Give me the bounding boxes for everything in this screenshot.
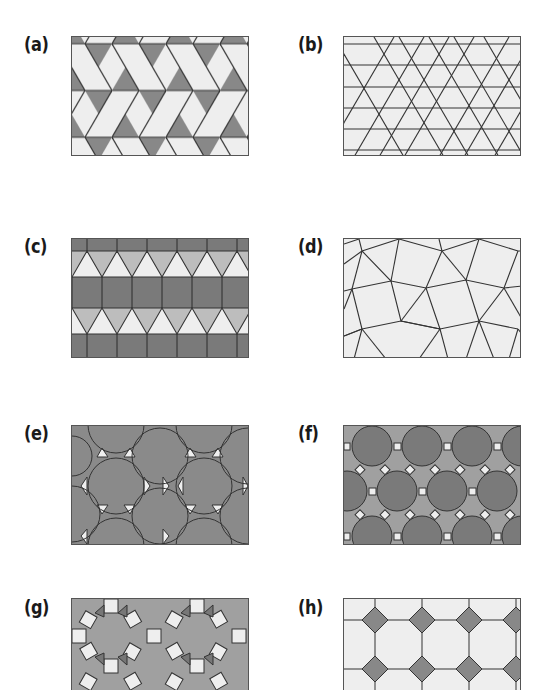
- tiling-panel-c: [71, 238, 249, 358]
- rhombitrihexagonal-tiling-graphic: [72, 599, 249, 690]
- panel-label-f: (f): [298, 422, 319, 444]
- panel-label-d: (d): [298, 235, 323, 257]
- elongated-triangular-tiling-graphic: [72, 239, 249, 358]
- tiling-panel-h: [343, 598, 521, 690]
- panel-label-b: (b): [298, 33, 323, 55]
- panel-label-h: (h): [298, 596, 323, 618]
- tiling-panel-e: [71, 425, 249, 545]
- tiling-panel-d: [343, 238, 521, 358]
- trihexagonal-tiling-graphic: [72, 37, 249, 156]
- truncated-square-tiling-graphic: [344, 599, 521, 690]
- truncated-trihexagonal-tiling-graphic: [344, 426, 521, 545]
- panel-label-a: (a): [24, 33, 48, 55]
- panel-label-c: (c): [24, 235, 47, 257]
- tiling-panel-g: [71, 598, 249, 690]
- truncated-hexagonal-tiling-graphic: [72, 426, 249, 545]
- tiling-panel-f: [343, 425, 521, 545]
- tiling-panel-b: [343, 36, 521, 156]
- snub-square-tiling-graphic: [344, 239, 521, 358]
- tiling-panel-a: [71, 36, 249, 156]
- panel-label-e: (e): [24, 422, 48, 444]
- snub-hexagonal-tiling-graphic: [344, 37, 521, 156]
- panel-label-g: (g): [24, 596, 49, 618]
